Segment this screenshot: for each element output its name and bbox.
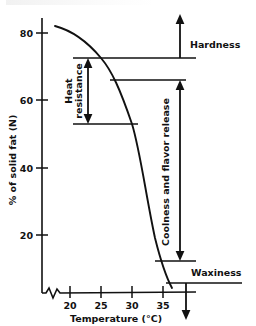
chart-figure: 80 60 40 20 20 25 30 35 Temperature (°C)… <box>0 0 256 326</box>
x-axis-line-with-break <box>42 288 196 298</box>
hardness-arrowhead-up-icon <box>176 14 185 24</box>
waxiness-label: Waxiness <box>191 267 242 278</box>
x-tick-label-25: 25 <box>94 300 107 311</box>
coolness-label: Coolness and flavor release <box>160 98 171 246</box>
axis-lines <box>42 18 196 298</box>
hardness-label: Hardness <box>190 39 241 50</box>
coolness-arrowhead-up-icon <box>176 80 185 90</box>
waxiness-arrowhead-down-icon <box>182 310 191 320</box>
annotation-waxiness: Waxiness <box>182 267 242 320</box>
heat-resistance-label-line2: resistance <box>73 63 84 118</box>
x-tick-label-20: 20 <box>63 300 77 311</box>
y-tick-label-60: 60 <box>20 95 34 106</box>
y-axis-title: % of solid fat (N) <box>7 115 18 206</box>
heat-resistance-arrowhead-up-icon <box>84 58 93 68</box>
y-tick-label-80: 80 <box>20 28 34 39</box>
solid-fat-vs-temperature-chart: 80 60 40 20 20 25 30 35 Temperature (°C)… <box>0 0 256 326</box>
x-tick-label-35: 35 <box>156 300 169 311</box>
annotation-coolness-and-flavor-release: Coolness and flavor release <box>160 80 184 261</box>
y-tick-label-20: 20 <box>20 230 34 241</box>
heat-resistance-arrowhead-down-icon <box>84 114 93 124</box>
coolness-arrowhead-down-icon <box>176 251 185 261</box>
x-axis-title: Temperature (°C) <box>70 313 162 324</box>
x-tick-label-30: 30 <box>125 300 139 311</box>
y-axis-tick-labels: 80 60 40 20 <box>20 28 34 241</box>
y-tick-label-40: 40 <box>20 163 34 174</box>
annotation-hardness: Hardness <box>176 14 241 58</box>
annotation-heat-resistance: Heat resistance <box>63 58 92 124</box>
x-axis-tick-labels: 20 25 30 35 <box>63 300 169 311</box>
